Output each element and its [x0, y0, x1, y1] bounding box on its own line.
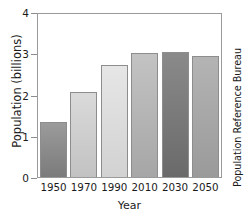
y-axis-tick-label: 1	[16, 132, 29, 142]
x-axis-label: Year	[37, 199, 222, 212]
bar-series	[38, 14, 221, 177]
chart-figure: World Population Population (billions) P…	[0, 0, 250, 216]
y-axis-tick	[31, 178, 37, 179]
bar-1990	[101, 65, 128, 177]
x-axis-tick-label: 1990	[100, 181, 129, 193]
y-axis-tick-label: 3	[16, 49, 29, 59]
x-axis-tick-label: 2030	[161, 181, 190, 193]
y-axis-tick-label: 0	[16, 173, 29, 183]
x-axis-tick-label: 2010	[130, 181, 159, 193]
bar-2050	[192, 56, 219, 177]
bar-2010	[131, 53, 158, 177]
bar-1970	[70, 92, 97, 177]
bar-2030	[162, 52, 189, 177]
y-axis-tick-label: 2	[16, 91, 29, 101]
x-axis-tick-label: 1970	[69, 181, 98, 193]
x-axis-tick-labels: 195019701990201020302050	[37, 181, 222, 193]
x-axis-tick-label: 2050	[191, 181, 220, 193]
bar-1950	[40, 122, 67, 177]
source-annotation: Population Reference Bureau	[232, 30, 243, 205]
x-axis-tick-label: 1950	[39, 181, 68, 193]
plot-area	[37, 13, 222, 178]
y-axis-tick-label: 4	[16, 8, 29, 18]
